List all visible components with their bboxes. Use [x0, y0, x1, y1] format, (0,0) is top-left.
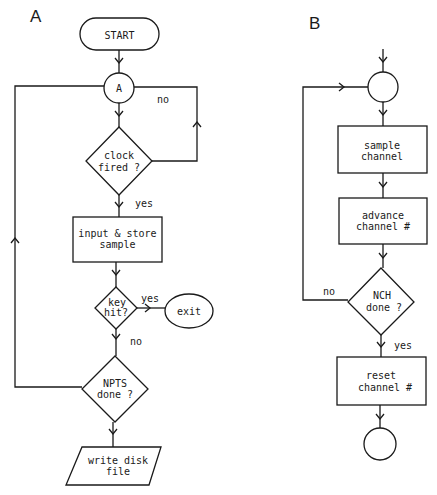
- key-label-2: hit?: [104, 307, 128, 318]
- advance-channel-process: advance channel #: [339, 198, 427, 244]
- nch-done-decision: NCH done ?: [348, 268, 414, 335]
- nch-no-label: no: [323, 286, 335, 297]
- nch-yes-label: yes: [394, 340, 412, 351]
- connector-b-top: [368, 72, 398, 102]
- input-label-1: input & store: [78, 228, 156, 239]
- exit-label: exit: [177, 306, 201, 317]
- advance-label-1: advance: [362, 210, 404, 221]
- reset-label-1: reset: [366, 370, 396, 381]
- key-hit-decision: key hit?: [95, 287, 137, 329]
- nch-loop-line: [303, 87, 368, 300]
- flowchart-canvas: A START A clock fired ? no yes input & s…: [0, 0, 437, 495]
- npts-label-1: NPTS: [103, 378, 127, 389]
- npts-label-2: done ?: [97, 389, 133, 400]
- exit-terminator: exit: [165, 294, 213, 328]
- reset-channel-process: reset channel #: [337, 357, 426, 405]
- key-yes-label: yes: [141, 293, 159, 304]
- input-label-2: sample: [99, 239, 135, 250]
- start-terminator: START: [80, 18, 159, 50]
- clock-fired-decision: clock fired ?: [86, 127, 152, 195]
- clock-no-label: no: [157, 94, 169, 105]
- sample-label-2: channel: [361, 151, 403, 162]
- connector-a: A: [104, 73, 134, 103]
- advance-label-2: channel #: [356, 221, 410, 232]
- panel-a-label: A: [30, 7, 42, 26]
- write-label-2: file: [106, 466, 130, 477]
- write-label-1: write disk: [88, 455, 148, 466]
- sample-channel-process: sample channel: [338, 126, 427, 173]
- panel-b-label: B: [309, 14, 320, 33]
- key-no-label: no: [130, 336, 142, 347]
- sample-label-1: sample: [364, 140, 400, 151]
- input-store-process: input & store sample: [73, 217, 162, 262]
- clock-label-1: clock: [104, 150, 134, 161]
- nch-label-2: done ?: [366, 302, 402, 313]
- nch-label-1: NCH: [373, 290, 391, 301]
- write-disk-io: write disk file: [66, 447, 161, 485]
- start-label: START: [104, 30, 134, 41]
- clock-label-2: fired ?: [98, 162, 140, 173]
- npts-done-decision: NPTS done ?: [82, 356, 148, 422]
- reset-label-2: channel #: [358, 382, 412, 393]
- connector-a-label: A: [116, 83, 122, 94]
- clock-yes-label: yes: [135, 198, 153, 209]
- connector-b-bottom: [364, 428, 396, 460]
